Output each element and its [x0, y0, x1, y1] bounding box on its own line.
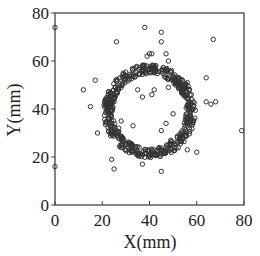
data-point	[209, 102, 213, 106]
axis-ticks	[51, 13, 244, 205]
data-point	[204, 100, 208, 104]
data-point	[114, 40, 118, 44]
y-tick-label: 80	[32, 4, 49, 23]
data-point	[93, 78, 97, 82]
data-point	[131, 124, 135, 128]
x-axis-label: X(mm)	[124, 232, 177, 253]
plot-frame	[55, 13, 244, 205]
data-point	[150, 92, 154, 96]
data-point	[119, 119, 123, 123]
data-point	[110, 157, 114, 161]
x-tick-label: 60	[188, 211, 205, 230]
data-point	[140, 162, 144, 166]
data-point	[95, 131, 99, 135]
tick-labels: 020406080020406080	[32, 4, 253, 230]
data-point	[159, 128, 163, 132]
data-point	[112, 167, 116, 171]
data-point	[204, 76, 208, 80]
y-tick-label: 40	[32, 100, 49, 119]
data-point	[164, 52, 168, 56]
scatter-chart: 020406080020406080 X(mm) Y(mm)	[0, 0, 260, 256]
data-point	[164, 121, 168, 125]
x-tick-label: 40	[141, 211, 158, 230]
x-tick-label: 0	[51, 211, 60, 230]
data-point	[88, 104, 92, 108]
data-point	[81, 88, 85, 92]
data-point	[152, 88, 156, 92]
data-point	[143, 25, 147, 29]
data-point	[159, 169, 163, 173]
data-point	[159, 40, 163, 44]
x-tick-label: 80	[236, 211, 253, 230]
data-point	[195, 150, 199, 154]
data-point	[166, 59, 170, 63]
data-point	[185, 148, 189, 152]
y-axis-label: Y(mm)	[4, 84, 25, 137]
data-points	[53, 25, 244, 173]
y-tick-label: 20	[32, 148, 49, 167]
data-point	[211, 37, 215, 41]
data-point	[213, 100, 217, 104]
y-tick-label: 0	[41, 196, 50, 215]
data-point	[239, 128, 243, 132]
data-point	[159, 30, 163, 34]
data-point	[171, 112, 175, 116]
data-point	[166, 85, 170, 89]
y-tick-label: 60	[32, 52, 49, 71]
x-tick-label: 20	[94, 211, 111, 230]
data-point	[135, 88, 139, 92]
data-point	[140, 95, 144, 99]
